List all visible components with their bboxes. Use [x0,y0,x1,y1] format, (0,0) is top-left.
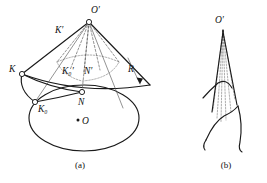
node-apex-O-prime [86,19,91,24]
b-tail-left [204,140,206,150]
node-K [19,71,24,76]
b-node-apex [222,30,224,32]
line-apex-right-base [89,22,123,108]
b-edge-right [223,32,237,105]
caption-panel-b: (b) [196,160,256,170]
node-ellipse-center-O [77,119,80,122]
label-K0: K₀ [37,104,48,114]
sector-outer-arc [22,74,150,89]
label-radius-R: R [127,64,134,74]
label-N: N [77,97,85,107]
node-N [79,89,84,94]
label-K0-prime: K₀′ [61,66,75,76]
generator-dashed-to-N [82,22,89,92]
label-K: K [8,64,16,74]
b-wave-curve-upper [203,81,232,98]
label-N-prime: N′ [83,66,93,76]
sector-edge-right [89,22,150,85]
b-label-apex-O-prime: O′ [215,15,225,25]
radius-arrowhead-icon [137,78,144,85]
caption-panel-a: (a) [50,160,110,170]
label-K-prime: K′ [54,25,64,35]
panel-a: O′ K′ K K₀′ N′ N K₀ O R [8,5,150,151]
label-ellipse-center-O: O [82,116,89,126]
b-tail-right [238,106,242,152]
node-K0 [32,99,37,104]
label-apex-O-prime: O′ [91,5,101,15]
figure-canvas: O′ K′ K K₀′ N′ N K₀ O R [0,0,267,183]
b-wave-curve-lower [206,106,238,140]
panel-b: O′ [203,15,242,152]
figure-root: O′ K′ K K₀′ N′ N K₀ O R [0,0,267,183]
